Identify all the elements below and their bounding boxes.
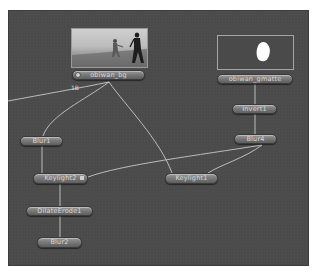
input-label: 1B <box>71 85 79 91</box>
node-keylight2[interactable]: Keylight2 <box>33 173 88 184</box>
matte-thumbnail-image <box>218 36 293 69</box>
obiwan-bg-thumbnail <box>71 28 148 68</box>
node-keylight1[interactable]: Keylight1 <box>165 173 218 184</box>
node-label: Blur2 <box>50 238 68 246</box>
node-label: obiwan_gmatte <box>229 75 282 83</box>
node-label: Keylight1 <box>175 174 207 182</box>
node-invert1[interactable]: Invert1 <box>232 104 277 114</box>
node-blur2[interactable]: Blur2 <box>37 237 82 248</box>
mask-input-icon[interactable] <box>80 176 84 180</box>
node-blur4[interactable]: Blur4 <box>234 134 277 144</box>
node-label: DilateErode1 <box>37 207 81 215</box>
read-icon <box>75 72 81 78</box>
node-dilateerode1[interactable]: DilateErode1 <box>26 206 93 216</box>
node-obiwan-gmatte[interactable]: obiwan_gmatte <box>217 74 293 84</box>
obiwan-gmatte-thumbnail <box>217 35 294 70</box>
node-label: Blur4 <box>246 135 264 143</box>
node-label: Invert1 <box>242 105 267 113</box>
node-label: Keylight2 <box>44 174 76 182</box>
actors-thumbnail-image <box>72 29 147 67</box>
node-label: Blur1 <box>32 137 50 145</box>
node-blur1[interactable]: Blur1 <box>20 136 63 146</box>
node-label: obiwan_bg <box>90 71 127 79</box>
node-obiwan-bg[interactable]: obiwan_bg <box>72 70 145 80</box>
